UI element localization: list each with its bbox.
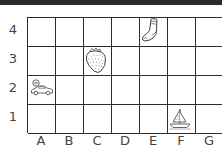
top-border-band [0,0,222,5]
cell-A1 [28,105,56,134]
x-label-D: D [111,133,139,148]
x-label-F: F [167,133,195,148]
cell-B4 [56,18,84,47]
cell-F4 [168,18,196,47]
y-label-4: 4 [6,22,20,37]
cell-G3 [196,47,222,76]
cell-D4 [112,18,140,47]
cell-C2 [84,76,112,105]
grid [27,17,222,133]
cell-D3 [112,47,140,76]
cell-F3 [168,47,196,76]
cell-D2 [112,76,140,105]
cell-C4 [84,18,112,47]
cell-G4 [196,18,222,47]
x-label-E: E [139,133,167,148]
x-label-G: G [195,133,222,148]
cell-F2 [168,76,196,105]
cell-B2 [56,76,84,105]
y-label-3: 3 [6,51,20,66]
car-icon [30,78,54,98]
cell-A3 [28,47,56,76]
cell-D1 [112,105,140,134]
cell-B3 [56,47,84,76]
cell-B1 [56,105,84,134]
strawberry-icon [84,47,108,74]
coordinate-grid-figure: 4 3 2 1 [0,0,222,150]
sailboat-icon [168,107,192,131]
y-label-1: 1 [6,109,20,124]
cell-E2 [140,76,168,105]
cell-G1 [196,105,222,134]
cell-E1 [140,105,168,134]
y-label-2: 2 [6,80,20,95]
cell-G2 [196,76,222,105]
x-label-A: A [27,133,55,148]
cell-A4 [28,18,56,47]
cell-C1 [84,105,112,134]
x-label-B: B [55,133,83,148]
x-label-C: C [83,133,111,148]
sock-icon [141,17,163,44]
cell-E3 [140,47,168,76]
